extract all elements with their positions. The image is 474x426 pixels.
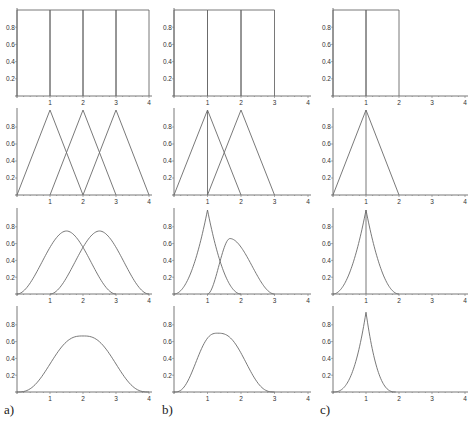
curve-b3-on-0-4- (17, 336, 149, 392)
y-tick-label: 0.2 (322, 174, 331, 181)
x-tick-label: 3 (430, 99, 434, 106)
x-tick-label: 3 (273, 297, 277, 304)
curve-b0-on-3-4- (116, 10, 149, 96)
y-tick-label: 0.4 (163, 157, 172, 164)
y-tick-label: 0.2 (322, 75, 331, 82)
panel-b: 12340.20.40.60.812340.20.40.60.812340.20… (162, 8, 311, 417)
x-tick-label: 2 (239, 297, 243, 304)
x-tick-label: 4 (463, 297, 467, 304)
y-tick-label: 0.4 (6, 355, 15, 362)
panel-c: 12340.20.40.60.812340.20.40.60.812340.20… (320, 8, 468, 417)
subplot-quadratic: 12340.20.40.60.8 (163, 208, 311, 304)
x-tick-label: 1 (206, 297, 210, 304)
subplot-cubic: 12340.20.40.60.8 (6, 306, 152, 402)
subplot-triangle: 12340.20.40.60.8 (322, 108, 468, 205)
curve-b2-on-1-3- (208, 239, 275, 294)
y-tick-label: 0.4 (322, 157, 331, 164)
x-tick-label: 1 (48, 198, 52, 205)
panel-label: a) (4, 402, 14, 417)
curve-b0-on-1-2- (366, 10, 399, 96)
y-tick-label: 0.8 (322, 321, 331, 328)
subplot-box: 12340.20.40.60.8 (163, 8, 311, 106)
x-tick-label: 4 (147, 198, 151, 205)
x-tick-label: 3 (273, 395, 277, 402)
y-tick-label: 0.8 (322, 223, 331, 230)
curve-b0-on-2-3- (241, 10, 275, 96)
subplot-triangle: 12340.20.40.60.8 (163, 108, 311, 205)
panel-label: b) (162, 402, 173, 417)
x-tick-label: 2 (239, 395, 243, 402)
y-tick-label: 0.6 (163, 240, 172, 247)
y-tick-label: 0.8 (163, 223, 172, 230)
y-tick-label: 0.2 (6, 174, 15, 181)
y-tick-label: 0.4 (163, 355, 172, 362)
x-tick-label: 1 (364, 395, 368, 402)
y-tick-label: 0.2 (163, 372, 172, 379)
panel-label: c) (320, 402, 330, 417)
x-tick-label: 4 (463, 99, 467, 106)
y-tick-label: 0.6 (322, 140, 331, 147)
x-tick-label: 3 (114, 395, 118, 402)
curve-b3-on-0-3- (174, 333, 275, 392)
y-tick-label: 0.4 (6, 58, 15, 65)
y-tick-label: 0.4 (6, 257, 15, 264)
y-tick-label: 0.6 (6, 338, 15, 345)
x-tick-label: 4 (147, 395, 151, 402)
y-tick-label: 0.8 (6, 123, 15, 130)
y-tick-label: 0.4 (163, 58, 172, 65)
x-tick-label: 2 (397, 297, 401, 304)
x-tick-label: 1 (48, 99, 52, 106)
y-tick-label: 0.6 (6, 41, 15, 48)
y-tick-label: 0.8 (163, 24, 172, 31)
b-spline-figure: 12340.20.40.60.812340.20.40.60.812340.20… (0, 0, 474, 426)
curve-b2-on-0-2- (174, 210, 241, 294)
x-tick-label: 4 (463, 395, 467, 402)
y-tick-label: 0.2 (6, 274, 15, 281)
curve-b0-on-0-1- (174, 10, 208, 96)
curve-b0-on-1-2- (208, 10, 242, 96)
curve-b3-cusp-at-1 (333, 312, 396, 392)
y-tick-label: 0.8 (322, 123, 331, 130)
y-tick-label: 0.6 (163, 338, 172, 345)
x-tick-label: 4 (306, 297, 310, 304)
subplot-cubic: 12340.20.40.60.8 (322, 306, 468, 402)
subplot-box: 12340.20.40.60.8 (6, 8, 152, 106)
y-tick-label: 0.8 (163, 321, 172, 328)
x-tick-label: 3 (430, 395, 434, 402)
x-tick-label: 1 (364, 198, 368, 205)
x-tick-label: 3 (273, 99, 277, 106)
y-tick-label: 0.8 (6, 321, 15, 328)
curve-b1-at-1 (17, 110, 83, 195)
y-tick-label: 0.4 (322, 257, 331, 264)
x-tick-label: 4 (147, 99, 151, 106)
curve-b0-on-0-1- (333, 10, 366, 96)
curve-b1-at-3 (83, 110, 149, 195)
y-tick-label: 0.6 (6, 240, 15, 247)
subplot-triangle: 12340.20.40.60.8 (6, 108, 152, 205)
y-tick-label: 0.6 (163, 41, 172, 48)
x-tick-label: 3 (430, 297, 434, 304)
x-tick-label: 1 (364, 99, 368, 106)
y-tick-label: 0.8 (6, 223, 15, 230)
y-tick-label: 0.4 (322, 355, 331, 362)
subplot-quadratic: 12340.20.40.60.8 (6, 208, 152, 304)
x-tick-label: 3 (114, 99, 118, 106)
x-tick-label: 4 (463, 198, 467, 205)
x-tick-label: 3 (114, 198, 118, 205)
x-tick-label: 4 (306, 99, 310, 106)
curve-b0-on-1-2- (50, 10, 83, 96)
panel-a: 12340.20.40.60.812340.20.40.60.812340.20… (4, 8, 152, 417)
x-tick-label: 4 (147, 297, 151, 304)
x-tick-label: 1 (206, 395, 210, 402)
y-tick-label: 0.6 (322, 41, 331, 48)
x-tick-label: 2 (81, 99, 85, 106)
y-tick-label: 0.2 (163, 75, 172, 82)
x-tick-label: 4 (306, 198, 310, 205)
x-tick-label: 1 (48, 395, 52, 402)
y-tick-label: 0.8 (163, 123, 172, 130)
x-tick-label: 2 (397, 99, 401, 106)
x-tick-label: 4 (306, 395, 310, 402)
x-tick-label: 1 (206, 198, 210, 205)
y-tick-label: 0.6 (322, 240, 331, 247)
x-tick-label: 2 (239, 198, 243, 205)
